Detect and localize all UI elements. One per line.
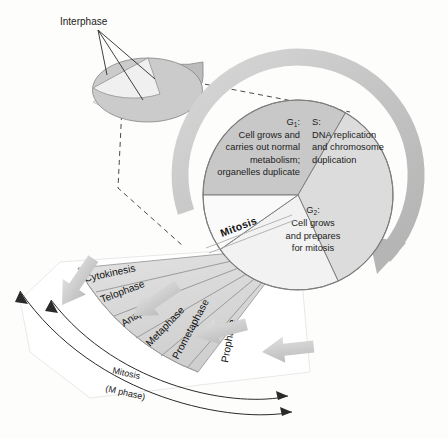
g1-heading: G [287, 117, 294, 127]
s-line-2: and chromosome [312, 142, 384, 152]
cell-cycle-figure: Interphase Cytokinesis Telophase Anaphas… [0, 0, 448, 438]
g2-colon: : [317, 205, 320, 215]
interphase-inset [92, 58, 203, 122]
s-line-3: duplication [312, 155, 356, 165]
interphase-label: Interphase [60, 16, 108, 27]
g1-line-1: Cell grows and [239, 130, 301, 140]
s-colon: : [318, 117, 321, 127]
g1-line-3: metabolism; [250, 155, 300, 165]
g1-line-4: organelles duplicate [217, 167, 300, 177]
cell-cycle-pie [203, 100, 393, 290]
g2-heading: G [306, 205, 313, 215]
g2-line-2: and prepares [286, 231, 341, 241]
g2-line-1: Cell grows [291, 218, 335, 228]
svg-text:G1:: G1: [287, 117, 301, 128]
svg-text:G2:: G2: [306, 205, 320, 216]
svg-text:S:: S: [312, 117, 321, 127]
s-line-1: DNA replication [312, 130, 376, 140]
g1-line-2: carries out normal [226, 142, 300, 152]
g1-colon: : [297, 117, 300, 127]
g2-line-3: for mitosis [292, 243, 335, 253]
